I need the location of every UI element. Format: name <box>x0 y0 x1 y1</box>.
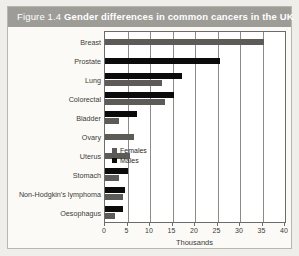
category-row: Lung <box>105 70 285 89</box>
x-axis-tick-label: 20 <box>190 227 198 234</box>
x-axis-title: Thousands <box>104 238 285 247</box>
bar-females <box>105 134 134 140</box>
category-row: Bladder <box>105 108 285 127</box>
bar-males <box>105 187 125 193</box>
x-axis-tick-label: 5 <box>125 227 129 234</box>
x-axis-tick-label: 10 <box>145 227 153 234</box>
y-axis-category-label: Non-Hodgkin's lymphoma <box>19 189 101 198</box>
x-axis-tick <box>172 222 173 226</box>
x-axis-tick <box>284 222 285 226</box>
bar-males <box>105 168 128 174</box>
category-row: Breast <box>105 32 285 51</box>
chart-area: BreastProstateLungColorectalBladderOvary… <box>8 27 293 249</box>
bar-females <box>105 39 264 45</box>
x-axis-tick <box>239 222 240 226</box>
legend-label: Females <box>120 147 147 154</box>
figure-title: Figure 1.4 Gender differences in common … <box>17 11 294 22</box>
bar-males <box>105 206 123 212</box>
bar-males <box>105 111 137 117</box>
plot-frame: BreastProstateLungColorectalBladderOvary… <box>104 31 286 223</box>
bar-females <box>105 175 119 181</box>
bar-females <box>105 213 115 219</box>
y-axis-category-label: Lung <box>85 75 101 84</box>
legend-item: Females <box>112 147 147 154</box>
x-axis-tick <box>217 222 218 226</box>
x-axis-tick-label: 35 <box>258 227 266 234</box>
x-axis-tick-label: 30 <box>235 227 243 234</box>
chart-legend: FemalesMales <box>112 147 147 167</box>
bar-males <box>105 73 182 79</box>
bar-males <box>105 92 174 98</box>
y-axis-category-label: Colorectal <box>69 94 101 103</box>
y-axis-category-label: Breast <box>80 37 101 46</box>
figure-number: Figure 1.4 <box>17 11 61 22</box>
category-row: Oesophagus <box>105 203 285 222</box>
y-axis-category-label: Bladder <box>76 113 101 122</box>
legend-item: Males <box>112 157 147 164</box>
x-axis-tick-label: 40 <box>280 227 288 234</box>
category-row: Prostate <box>105 51 285 70</box>
legend-label: Males <box>120 157 139 164</box>
bar-females <box>105 118 119 124</box>
figure-title-text: Gender differences in common cancers in … <box>64 11 294 22</box>
legend-swatch-females <box>112 148 117 153</box>
category-row: Colorectal <box>105 89 285 108</box>
category-row: Non-Hodgkin's lymphoma <box>105 184 285 203</box>
y-axis-category-label: Ovary <box>82 132 101 141</box>
x-axis-tick <box>262 222 263 226</box>
y-axis-category-label: Stomach <box>73 170 101 179</box>
x-axis-tick <box>194 222 195 226</box>
x-axis-tick-label: 0 <box>102 227 106 234</box>
legend-swatch-males <box>112 158 117 163</box>
x-axis-tick <box>104 222 105 226</box>
bar-females <box>105 194 123 200</box>
figure-title-bar: Figure 1.4 Gender differences in common … <box>8 7 291 27</box>
bar-males <box>105 58 220 64</box>
y-axis-category-label: Prostate <box>74 56 101 65</box>
bar-females <box>105 99 165 105</box>
x-axis-tick-label: 25 <box>213 227 221 234</box>
x-axis-tick-label: 15 <box>168 227 176 234</box>
bar-females <box>105 80 162 86</box>
y-axis-category-label: Uterus <box>80 151 101 160</box>
x-axis-tick <box>127 222 128 226</box>
category-row: Ovary <box>105 127 285 146</box>
category-row: Stomach <box>105 165 285 184</box>
x-axis-tick <box>149 222 150 226</box>
figure-container: Figure 1.4 Gender differences in common … <box>7 6 292 249</box>
y-axis-category-label: Oesophagus <box>60 208 101 217</box>
